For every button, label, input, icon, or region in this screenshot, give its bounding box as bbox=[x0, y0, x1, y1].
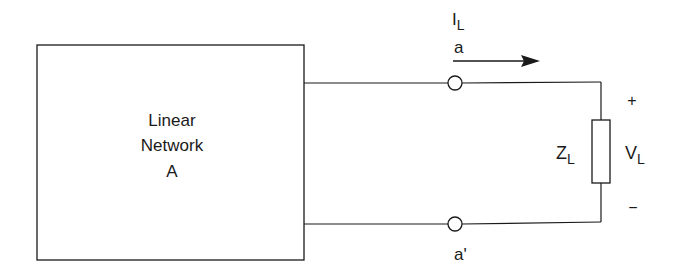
top-wire-right bbox=[462, 82, 601, 83]
current-label: IL bbox=[452, 10, 465, 33]
load-impedance-icon bbox=[592, 120, 610, 183]
polarity-minus: − bbox=[628, 199, 637, 216]
terminal-a-prime bbox=[448, 217, 462, 231]
terminal-a bbox=[448, 76, 462, 90]
network-label-line3: A bbox=[166, 162, 178, 181]
network-label-line2: Network bbox=[141, 136, 204, 155]
network-label-line1: Linear bbox=[148, 111, 196, 130]
polarity-plus: + bbox=[627, 92, 636, 109]
bottom-wire-right bbox=[462, 222, 601, 224]
terminal-a-label: a bbox=[454, 38, 464, 57]
terminal-a-prime-label: a' bbox=[454, 245, 467, 264]
load-impedance-label: ZL bbox=[556, 143, 575, 167]
circuit-diagram: Linear Network A IL a a' ZL VL + − bbox=[0, 0, 676, 274]
load-voltage-label: VL bbox=[625, 143, 645, 167]
